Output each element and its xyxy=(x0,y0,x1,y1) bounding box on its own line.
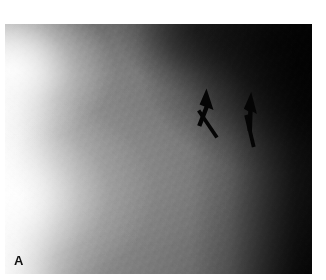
radiograph-image xyxy=(5,24,312,274)
annotation-overlay xyxy=(5,24,312,274)
arrow-right-icon xyxy=(244,92,257,147)
figure-root: A xyxy=(0,0,326,280)
arrow-left-icon xyxy=(197,89,218,139)
panel-label: A xyxy=(14,254,23,267)
